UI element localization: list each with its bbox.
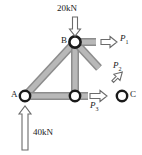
force-subscript-P2: 2 <box>119 66 122 72</box>
force-subscript-P3: 3 <box>96 106 99 112</box>
load-label-40kN: 40kN <box>33 128 53 137</box>
node-label-B: B <box>61 36 67 45</box>
truss-members <box>25 42 99 96</box>
node-A <box>20 91 30 101</box>
force-label-P3: P3 <box>90 101 99 112</box>
node-C <box>117 91 127 101</box>
node-B <box>69 36 80 47</box>
force-subscript-P1: 1 <box>126 39 129 45</box>
arrow-P1-right <box>101 37 117 48</box>
arrow-P2-down-right <box>112 72 122 82</box>
node-D <box>70 91 80 101</box>
truss-diagram-figure: A B C 20kN 40kN P1 P2 P3 <box>0 0 142 155</box>
arrow-40kN-up <box>19 106 31 150</box>
arrow-20kN-down <box>70 17 81 36</box>
load-label-20kN: 20kN <box>57 4 77 13</box>
force-label-P1: P1 <box>120 34 129 45</box>
member-A-B-core <box>25 42 75 96</box>
node-label-A: A <box>11 90 18 99</box>
truss-diagram-canvas <box>0 0 142 155</box>
force-label-P2: P2 <box>113 61 122 72</box>
node-label-C: C <box>130 90 136 99</box>
